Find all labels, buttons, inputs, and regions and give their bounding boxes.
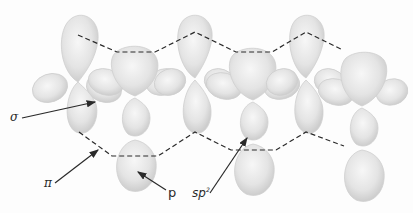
sp2-label: sp2 <box>192 187 210 199</box>
orbital-drawing <box>0 0 413 213</box>
carbon-atom-2 <box>85 46 185 191</box>
pi-label: π <box>44 177 52 189</box>
carbon-atom-5 <box>263 15 350 133</box>
pi-bond-dash-lower <box>79 132 344 156</box>
sp2-label-superscript: 2 <box>206 186 210 193</box>
p-orbital-label: p <box>168 186 176 199</box>
pi-arrow <box>55 150 98 183</box>
sigma-label: σ <box>10 111 18 123</box>
orbital-diagram: σ π p sp2 <box>0 0 413 213</box>
sp2-label-base: sp <box>192 186 206 200</box>
